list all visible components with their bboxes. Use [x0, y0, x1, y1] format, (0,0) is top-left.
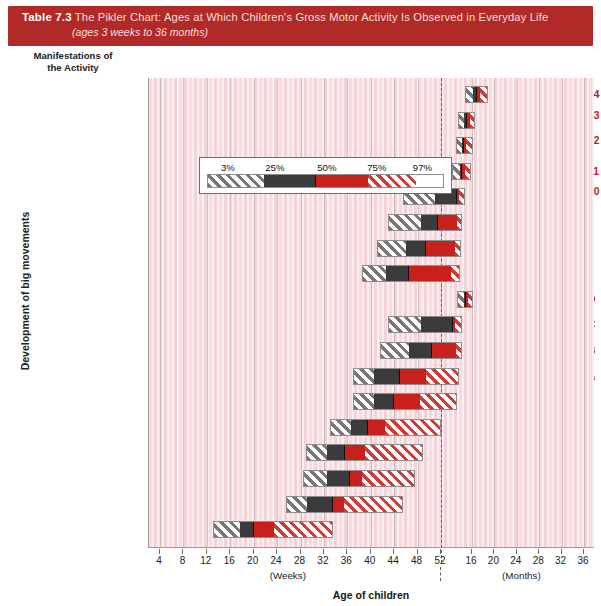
activity-column-header: Manifestations of the Activity [0, 50, 146, 73]
bar-segment-3%-25% [214, 522, 240, 537]
grid-line [584, 78, 585, 547]
bar-segment-75%-97% [344, 497, 402, 512]
bar-segment-50%-75% [254, 522, 274, 537]
bar-segment-50%-75% [409, 266, 452, 281]
x-tick [370, 549, 371, 554]
percentile-bar [380, 342, 462, 359]
percentile-bar [330, 419, 441, 436]
x-tick [561, 549, 562, 554]
bar-segment-75%-97% [385, 420, 440, 435]
x-tick-label-week-16: 16 [224, 555, 235, 566]
percentile-bar [457, 291, 473, 308]
x-tick-label-month-20: 20 [488, 555, 499, 566]
x-tick [159, 549, 160, 554]
bar-segment-75%-97% [457, 215, 461, 230]
percentile-bar [362, 265, 460, 282]
bar-segment-3%-25% [304, 471, 327, 486]
bar-segment-25%-50% [374, 394, 394, 409]
bar-segment-75%-97% [455, 241, 460, 256]
legend-label-50: 50% [301, 162, 353, 173]
x-tick [229, 549, 230, 554]
grid-line [418, 78, 419, 547]
grid-line [494, 78, 495, 547]
x-tick-label-month-16: 16 [465, 555, 476, 566]
x-tick [393, 549, 394, 554]
bar-segment-25%-50% [327, 471, 350, 486]
bar-segment-25%-50% [307, 497, 333, 512]
bar-segment-50%-75% [333, 497, 345, 512]
bar-segment-25%-50% [327, 445, 344, 460]
percentile-bar [452, 163, 471, 180]
x-tick-label-week-8: 8 [180, 555, 186, 566]
x-tick-label-month-24: 24 [510, 555, 521, 566]
bar-segment-75%-97% [468, 292, 472, 307]
bar-segment-75%-97% [466, 138, 472, 153]
bar-segment-75%-97% [455, 317, 461, 332]
percentile-bar [353, 393, 457, 410]
x-tick [440, 549, 441, 554]
x-axis: Age of children 481216202428323640444852… [148, 549, 594, 606]
percentile-bar [303, 470, 414, 487]
bar-segment-3%-25% [389, 215, 420, 230]
bar-segment-25%-50% [421, 215, 438, 230]
percentile-bar [377, 240, 462, 257]
legend-swatch [207, 174, 444, 188]
grid-line [301, 78, 302, 547]
bar-segment-50%-75% [368, 420, 385, 435]
bar-segment-3%-25% [307, 445, 327, 460]
x-tick-label-week-12: 12 [200, 555, 211, 566]
bar-segment-50%-75% [432, 343, 456, 358]
bar-segment-25%-50% [386, 266, 409, 281]
bar-segment-25%-50% [421, 317, 453, 332]
x-tick-label-week-48: 48 [411, 555, 422, 566]
bar-segment-25%-50% [409, 343, 432, 358]
bar-segment-50%-75% [394, 394, 420, 409]
percentile-bar [388, 214, 462, 231]
x-tick [417, 549, 418, 554]
bar-segment-75%-97% [365, 445, 423, 460]
grid-line [230, 78, 231, 547]
bar-segment-75%-97% [456, 343, 461, 358]
legend-label-75: 75% [353, 162, 401, 173]
table-subtitle: (ages 3 weeks to 36 months) [22, 25, 583, 40]
bar-segment-50%-75% [426, 241, 455, 256]
x-tick [253, 549, 254, 554]
x-tick [276, 549, 277, 554]
bar-segment-3%-25% [331, 420, 351, 435]
chart-plot-area: 3%25%50%75%97% [148, 78, 594, 548]
y-axis-title: Development of big movements [19, 206, 31, 376]
grid-line [277, 78, 278, 547]
table-title-bar: Table 7.3 The Pikler Chart: Ages at Whic… [8, 6, 593, 46]
bar-segment-50%-75% [350, 471, 362, 486]
legend-label-25: 25% [249, 162, 301, 173]
x-tick-label-week-52: 52 [434, 555, 445, 566]
weeks-unit-label: (Weeks) [270, 570, 306, 581]
bar-segment-25%-50% [406, 241, 426, 256]
x-tick-label-week-24: 24 [271, 555, 282, 566]
bar-segment-75%-97% [274, 522, 332, 537]
bar-segment-3%-25% [287, 497, 307, 512]
bar-segment-75%-97% [459, 189, 464, 204]
bar-segment-3%-25% [354, 394, 374, 409]
bar-segment-75%-97% [480, 87, 487, 102]
x-tick-label-week-36: 36 [341, 555, 352, 566]
bar-segment-25%-50% [374, 369, 400, 384]
percentile-bar [458, 112, 475, 129]
percentile-bar [456, 137, 473, 154]
legend-band-75-97 [368, 175, 416, 187]
x-tick-label-month-36: 36 [577, 555, 588, 566]
legend-label-97: 97% [401, 162, 444, 173]
bar-segment-3%-25% [363, 266, 386, 281]
grid-line [160, 78, 161, 547]
x-tick-label-week-44: 44 [388, 555, 399, 566]
grid-line [517, 78, 518, 547]
grid-line [207, 78, 208, 547]
x-tick-label-week-40: 40 [364, 555, 375, 566]
grid-line [562, 78, 563, 547]
x-tick [323, 549, 324, 554]
percentile-legend: 3%25%50%75%97% [199, 157, 452, 194]
x-axis-title: Age of children [148, 589, 594, 601]
x-tick-label-month-28: 28 [533, 555, 544, 566]
bar-segment-3%-25% [378, 241, 407, 256]
grid-line [254, 78, 255, 547]
